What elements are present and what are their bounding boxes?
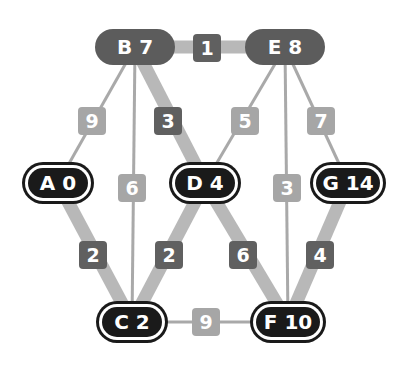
weighted-graph-diagram: 193657322649 B 7E 8A 0D 4G 14C 2F 10 [0, 0, 404, 366]
weight-value: 6 [236, 244, 249, 266]
node-label: F 10 [264, 310, 312, 334]
weight-value: 2 [162, 244, 175, 266]
node-c: C 2 [96, 301, 168, 343]
edge-weight-label-a-c: 2 [79, 241, 107, 269]
weight-value: 4 [313, 244, 326, 266]
node-a: A 0 [22, 162, 94, 204]
nodes: B 7E 8A 0D 4G 14C 2F 10 [22, 29, 386, 343]
edge-weight-label-b-a: 9 [78, 107, 106, 135]
weight-value: 9 [85, 110, 98, 132]
node-label: C 2 [114, 310, 150, 334]
edge-weight-label-d-f: 6 [229, 241, 257, 269]
weight-value: 7 [314, 110, 327, 132]
node-label: G 14 [322, 171, 373, 195]
node-label: E 8 [268, 35, 303, 59]
node-g: G 14 [310, 162, 386, 204]
edge-weight-label-b-e: 1 [193, 34, 221, 62]
node-e: E 8 [245, 29, 325, 65]
edge-weight-label-e-f: 3 [273, 174, 301, 202]
weight-value: 6 [125, 177, 138, 199]
edge-weight-label-b-d: 3 [154, 107, 182, 135]
edge-weight-label-c-f: 9 [192, 308, 220, 336]
edge-weight-label-b-c: 6 [118, 174, 146, 202]
edge-weight-label-g-f: 4 [306, 241, 334, 269]
node-b: B 7 [95, 29, 175, 65]
node-label: B 7 [117, 35, 153, 59]
weight-value: 3 [280, 177, 293, 199]
edge-weight-label-e-g: 7 [307, 107, 335, 135]
node-label: A 0 [40, 171, 76, 195]
edge-weight-label-e-d: 5 [231, 107, 259, 135]
weight-value: 2 [86, 244, 99, 266]
weight-value: 5 [238, 110, 251, 132]
weight-value: 3 [161, 110, 174, 132]
node-label: D 4 [186, 171, 223, 195]
edge-weight-label-d-c: 2 [155, 241, 183, 269]
node-d: D 4 [169, 162, 241, 204]
weight-value: 9 [199, 311, 212, 333]
weight-value: 1 [200, 37, 213, 59]
node-f: F 10 [250, 301, 326, 343]
